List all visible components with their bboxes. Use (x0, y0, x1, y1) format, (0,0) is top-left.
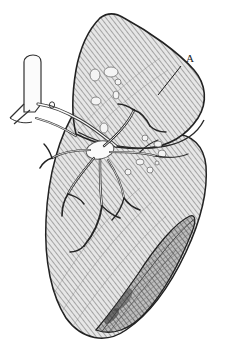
figure-container: A (0, 0, 232, 353)
lymph-nodule (91, 97, 101, 105)
lymph-nodule (136, 159, 144, 165)
lymph-nodule (142, 135, 148, 141)
lymph-nodule (125, 169, 131, 175)
lymph-nodule (147, 167, 153, 173)
lymph-nodule (104, 67, 118, 77)
lymph-nodule (115, 79, 121, 85)
lymph-nodule (155, 161, 159, 165)
lymph-nodule (90, 69, 100, 81)
lymph-nodule (154, 141, 162, 147)
lymph-nodule (100, 123, 108, 133)
label-a-text: A (186, 52, 194, 64)
lung-engraving: A (0, 0, 232, 353)
lymph-nodule (113, 91, 119, 99)
